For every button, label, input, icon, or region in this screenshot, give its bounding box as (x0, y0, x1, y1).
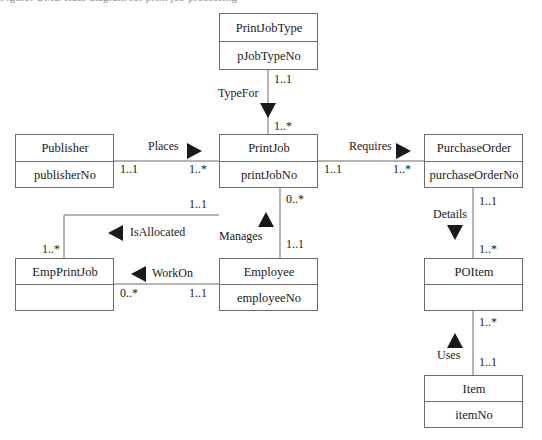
arrow-up-icon-uses (447, 333, 463, 348)
arrow-left-icon-isallocated (108, 225, 123, 241)
multiplicity-places-source: 1..1 (120, 162, 138, 176)
arrow-down-icon-typefor (260, 103, 276, 118)
class-name-printjob: PrintJob (248, 141, 290, 155)
multiplicity-places-target: 1..* (189, 162, 207, 176)
multiplicity-workon-target: 1..1 (189, 286, 207, 300)
uml-class-diagram: PrintJobType pJobTypeNo Publisher publis… (0, 0, 542, 440)
class-box-printjobtype[interactable]: PrintJobType pJobTypeNo (220, 14, 318, 70)
diagram-canvas: PrintJobType pJobTypeNo Publisher publis… (0, 0, 542, 440)
class-box-publisher[interactable]: Publisher publisherNo (16, 135, 114, 188)
class-box-empprintjob[interactable]: EmpPrintJob (16, 259, 114, 311)
class-attribute-purchaseorder: purchaseOrderNo (430, 168, 519, 182)
arrow-up-icon-manages (258, 212, 274, 227)
multiplicity-manages-target: 1..1 (286, 237, 304, 251)
association-label-manages: Manages (219, 229, 263, 243)
class-attribute-printjobtype: pJobTypeNo (237, 49, 301, 63)
association-label-typefor: TypeFor (218, 86, 259, 100)
class-box-poitem[interactable]: POItem (425, 259, 523, 311)
class-name-printjobtype: PrintJobType (236, 21, 303, 35)
class-attribute-publisher: publisherNo (34, 168, 96, 182)
multiplicity-isallocated-source: 1..1 (189, 197, 207, 211)
arrow-left-icon-workon (131, 266, 146, 282)
multiplicity-typefor-source: 1..1 (274, 72, 292, 86)
multiplicity-typefor-target: 1..* (274, 119, 292, 133)
multiplicity-isallocated-target: 1..* (42, 242, 60, 256)
multiplicity-manages-source: 0..* (286, 192, 304, 206)
multiplicity-workon-source: 0..* (120, 286, 138, 300)
class-box-employee[interactable]: Employee employeeNo (220, 259, 318, 311)
arrow-right-icon-requires (396, 143, 411, 159)
multiplicity-requires-source: 1..1 (324, 162, 342, 176)
class-name-empprintjob: EmpPrintJob (32, 265, 97, 279)
multiplicity-details-source: 1..1 (479, 194, 497, 208)
class-attribute-printjob: printJobNo (241, 168, 297, 182)
multiplicity-requires-target: 1..* (393, 162, 411, 176)
multiplicity-uses-target: 1..1 (479, 355, 497, 369)
multiplicity-uses-source: 1..* (479, 315, 497, 329)
association-label-details: Details (433, 207, 467, 221)
class-box-purchaseorder[interactable]: PurchaseOrder purchaseOrderNo (425, 135, 523, 188)
arrow-right-icon-places (187, 143, 202, 159)
class-name-item: Item (463, 382, 486, 396)
association-label-workon: WorkOn (152, 266, 193, 280)
class-box-printjob[interactable]: PrintJob printJobNo (220, 135, 318, 188)
class-name-purchaseorder: PurchaseOrder (437, 141, 512, 155)
multiplicity-details-target: 1..* (479, 242, 497, 256)
association-labels: TypeFor Places Requires IsAllocated Mana… (130, 86, 467, 362)
class-name-publisher: Publisher (41, 141, 89, 155)
association-label-places: Places (148, 139, 179, 153)
class-attribute-item: itemNo (455, 408, 493, 422)
association-label-requires: Requires (349, 139, 392, 153)
class-name-employee: Employee (244, 265, 295, 279)
association-label-isallocated: IsAllocated (130, 225, 185, 239)
arrow-down-icon-details (447, 225, 463, 240)
class-attribute-employee: employeeNo (237, 291, 301, 305)
class-box-item[interactable]: Item itemNo (425, 376, 523, 428)
class-name-poitem: POItem (455, 265, 494, 279)
association-label-uses: Uses (437, 348, 461, 362)
